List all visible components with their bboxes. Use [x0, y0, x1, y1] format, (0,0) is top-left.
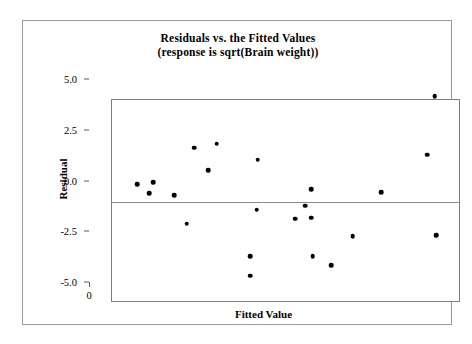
y-axis-tick-label: -5.0: [60, 277, 77, 288]
scatter-point: [433, 94, 438, 99]
y-axis-tick-mark: [84, 180, 89, 181]
y-axis-tick-label: 2.5: [64, 124, 77, 135]
scatter-point: [135, 182, 140, 187]
scatter-point: [425, 153, 430, 158]
zero-reference-line: [112, 202, 459, 203]
scatter-point: [192, 145, 197, 150]
scatter-point: [254, 207, 259, 212]
scatter-point: [309, 187, 314, 192]
chart-outer-frame: Residuals vs. the Fitted Values (respons…: [22, 20, 452, 325]
scatter-point: [256, 158, 261, 163]
scatter-point: [329, 263, 334, 268]
scatter-point: [310, 254, 315, 259]
x-axis-tick-mark: [89, 282, 90, 287]
y-axis-tick-label: 5.0: [64, 74, 77, 85]
scatter-point: [350, 234, 355, 239]
chart-title-block: Residuals vs. the Fitted Values (respons…: [23, 31, 453, 59]
scatter-point: [434, 233, 439, 238]
scatter-point: [147, 191, 152, 196]
y-axis-tick-mark: [84, 79, 89, 80]
x-axis-label: Fitted Value: [89, 308, 438, 320]
y-axis-tick-mark: [84, 231, 89, 232]
scatter-point: [184, 222, 189, 227]
scatter-point: [303, 203, 308, 208]
y-axis-tick-mark: [84, 129, 89, 130]
plot-area: [111, 99, 460, 302]
y-axis-tick-label: -2.5: [60, 226, 77, 237]
scatter-point: [214, 141, 219, 146]
scatter-point: [172, 193, 177, 198]
scatter-point: [309, 215, 314, 220]
y-axis-tick-label: 0.0: [64, 175, 77, 186]
x-axis-tick-label: 0: [86, 290, 91, 301]
scatter-point: [248, 273, 253, 278]
chart-subtitle: (response is sqrt(Brain weight)): [23, 45, 453, 59]
scatter-point: [293, 216, 298, 221]
scatter-point: [206, 168, 211, 173]
scatter-point: [248, 254, 253, 259]
scatter-point: [379, 190, 384, 195]
chart-title: Residuals vs. the Fitted Values: [23, 31, 453, 45]
scatter-point: [151, 180, 156, 185]
